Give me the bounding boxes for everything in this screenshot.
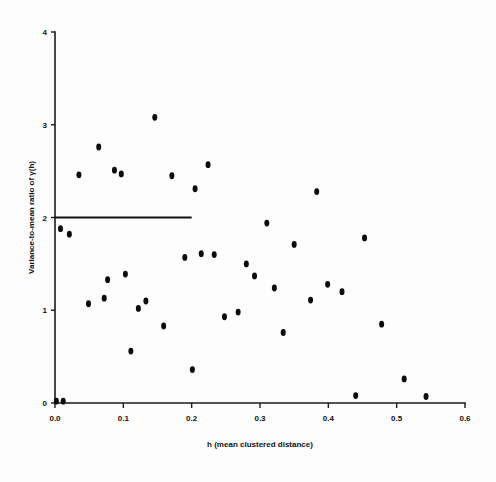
data-point — [123, 271, 128, 278]
x-tick-label-3: 0.3 — [254, 414, 266, 423]
x-tick-label-4: 0.4 — [323, 414, 335, 423]
data-point — [212, 251, 217, 258]
data-point — [199, 250, 204, 257]
data-point — [252, 273, 257, 280]
data-point — [340, 288, 345, 295]
x-tick-label-2: 0.2 — [186, 414, 198, 423]
data-point — [353, 392, 358, 399]
data-point — [128, 348, 133, 355]
y-tick-label-4: 4 — [43, 28, 48, 37]
data-point-group — [54, 114, 429, 405]
y-tick-label-3: 3 — [43, 121, 48, 130]
y-tick-label-0: 0 — [43, 399, 48, 408]
data-point — [86, 300, 91, 307]
x-tick-label-1: 0.1 — [118, 414, 130, 423]
data-point — [190, 366, 195, 373]
data-point — [105, 276, 110, 283]
data-point — [193, 185, 198, 192]
data-point — [58, 225, 63, 232]
data-point — [325, 281, 330, 288]
data-point — [379, 321, 384, 328]
data-point — [314, 188, 319, 195]
y-tick-label-1: 1 — [43, 306, 48, 315]
y-axis-title: Variance-to-mean ratio of γ(h) — [27, 161, 36, 274]
data-point — [272, 285, 277, 292]
data-point — [244, 260, 249, 267]
data-point — [136, 305, 141, 312]
data-point — [102, 295, 107, 302]
data-point — [182, 254, 187, 261]
data-point — [152, 114, 157, 121]
x-axis-title: h (mean clustered distance) — [207, 440, 313, 449]
data-point — [76, 171, 81, 178]
scatter-plot-figure: 012340.00.10.20.30.40.50.6h (mean cluste… — [0, 0, 496, 482]
data-point — [61, 398, 66, 405]
x-tick-label-6: 0.6 — [459, 414, 471, 423]
data-point — [169, 172, 174, 179]
data-point — [206, 161, 211, 168]
data-point — [54, 398, 59, 405]
data-point — [143, 298, 148, 305]
data-point — [112, 167, 117, 174]
data-point — [96, 144, 101, 151]
data-point — [222, 313, 227, 320]
data-point — [281, 329, 286, 336]
data-point — [424, 393, 429, 400]
data-point — [161, 323, 166, 330]
data-point — [67, 231, 72, 238]
data-point — [236, 309, 241, 316]
data-point — [308, 297, 313, 304]
data-point — [264, 220, 269, 227]
x-tick-label-0: 0.0 — [49, 414, 61, 423]
data-point — [362, 235, 367, 242]
data-point — [119, 171, 124, 178]
x-tick-label-5: 0.5 — [391, 414, 403, 423]
data-point — [292, 241, 297, 248]
data-point — [402, 375, 407, 382]
y-tick-label-2: 2 — [43, 214, 48, 223]
plot-canvas: 012340.00.10.20.30.40.50.6h (mean cluste… — [0, 0, 496, 482]
